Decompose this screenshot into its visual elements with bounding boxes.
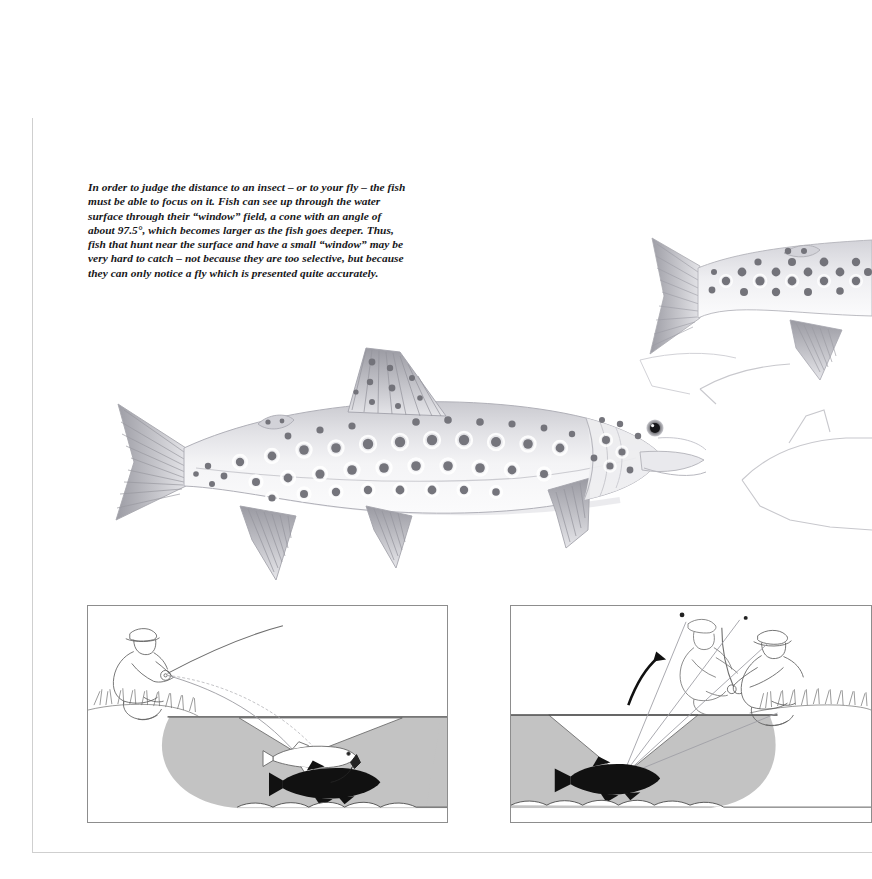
eye: [646, 419, 663, 436]
dorsal-fin-main: [348, 348, 446, 416]
spotted-trout-main: [116, 348, 706, 580]
fishing-rod: [168, 626, 283, 674]
tail-fin-main: [116, 404, 186, 520]
book-page: In order to judge the distance to an ins…: [0, 0, 872, 879]
trout-outline-sketch: [700, 364, 872, 530]
tail-fin-2: [650, 238, 700, 354]
spotted-trout-upper-right: [650, 238, 872, 380]
refracted-angler-figure: [680, 613, 748, 715]
anal-fin-2: [790, 320, 842, 380]
pectoral-fin-main: [548, 478, 590, 548]
pelvic-fin-main: [366, 506, 412, 568]
deep-fish-window-diagram: [510, 605, 872, 823]
angler-figure: [727, 630, 803, 725]
shallow-fish-window-diagram: [87, 605, 448, 823]
ghost-fin-sketch: [640, 353, 736, 394]
anal-fin-main: [240, 506, 296, 580]
fishing-rod: [722, 628, 734, 687]
refraction-arrow: [628, 652, 666, 706]
